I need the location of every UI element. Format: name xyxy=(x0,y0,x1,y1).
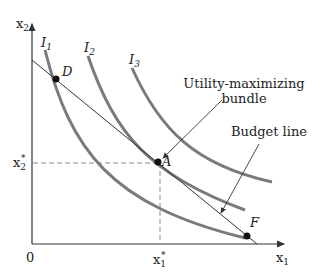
y-axis-label: x2 xyxy=(16,16,29,33)
point-label-d: D xyxy=(61,64,73,79)
x-axis-label: x1 xyxy=(276,250,289,267)
budget-line-label: Budget line xyxy=(231,124,307,139)
point-label-f: F xyxy=(249,215,260,230)
origin-label: 0 xyxy=(26,250,34,265)
utility-maximizing-label: Utility-maximizing xyxy=(183,76,304,91)
curve-label-i2: I2 xyxy=(83,40,95,57)
x1-star-label: x1* xyxy=(153,250,166,269)
curve-label-i3: I3 xyxy=(128,52,140,69)
x2-star-label: x2* xyxy=(13,153,26,172)
point-f xyxy=(244,233,251,240)
point-label-a: A xyxy=(161,154,171,169)
curve-label-i1: I1 xyxy=(40,35,52,52)
point-d xyxy=(53,76,60,83)
bundle-label: bundle xyxy=(221,91,267,106)
utility-maximization-diagram: x2 x1 0 I1 I2 I3 D A F x2* x1* Utility-m… xyxy=(0,0,320,275)
point-a xyxy=(155,159,162,166)
